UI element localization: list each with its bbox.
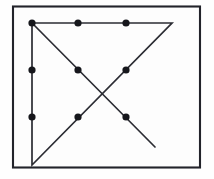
dot-r3c2 — [74, 113, 81, 120]
dot-r1c1 — [28, 19, 35, 26]
dot-r1c2 — [74, 19, 81, 26]
dot-r2c1 — [28, 66, 35, 73]
nine-dots-puzzle-figure — [0, 0, 214, 179]
outer-border — [13, 7, 200, 168]
dot-r2c3 — [122, 66, 129, 73]
dot-r3c1 — [28, 113, 35, 120]
dot-r2c2 — [74, 66, 81, 73]
dot-r3c3 — [122, 113, 129, 120]
dot-r1c3 — [122, 19, 129, 26]
figure-canvas — [0, 0, 214, 179]
